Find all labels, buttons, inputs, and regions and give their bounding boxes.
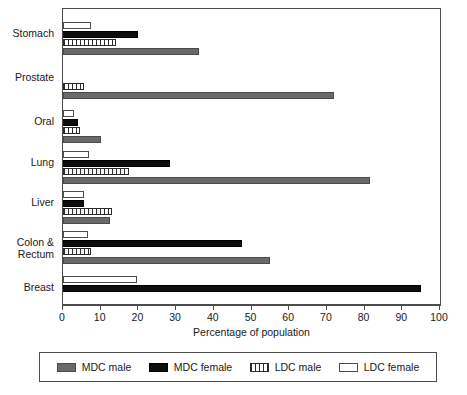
x-tick-10: [100, 305, 101, 310]
x-tick-100: [439, 305, 440, 310]
bar-chart: StomachProstateOralLungLiverColon & Rect…: [0, 0, 467, 395]
x-tick-label-60: 60: [273, 311, 303, 323]
bar-ldc-male-colon-rectum: [63, 248, 91, 255]
x-tick-30: [175, 305, 176, 310]
x-tick-label-100: 100: [424, 311, 454, 323]
bar-ldc-female-stomach: [63, 22, 91, 29]
bar-mdc-male-oral: [63, 136, 101, 143]
ldc-female-swatch: [339, 363, 358, 372]
x-tick-0: [62, 305, 63, 310]
category-label-colon-rectum: Colon & Rectum: [0, 237, 54, 260]
x-tick-label-40: 40: [198, 311, 228, 323]
legend-label: LDC female: [364, 361, 419, 373]
bar-ldc-female-liver: [63, 191, 84, 198]
bar-ldc-female-colon-rectum: [63, 231, 88, 238]
x-tick-60: [288, 305, 289, 310]
bar-ldc-female-oral: [63, 110, 74, 117]
legend-item-ldc-female[interactable]: LDC female: [339, 361, 419, 373]
bar-ldc-female-lung: [63, 151, 89, 158]
x-tick-label-90: 90: [386, 311, 416, 323]
bar-ldc-male-oral: [63, 127, 80, 134]
x-tick-40: [213, 305, 214, 310]
legend-label: MDC female: [174, 361, 232, 373]
legend-items: MDC maleMDC femaleLDC maleLDC female: [40, 353, 436, 381]
x-tick-label-30: 30: [160, 311, 190, 323]
legend-item-mdc-male[interactable]: MDC male: [57, 361, 132, 373]
x-tick-50: [251, 305, 252, 310]
x-axis-title: Percentage of population: [62, 326, 441, 338]
bar-ldc-male-stomach: [63, 39, 116, 46]
x-axis-line: [62, 305, 441, 306]
legend-item-mdc-female[interactable]: MDC female: [149, 361, 232, 373]
x-tick-label-80: 80: [349, 311, 379, 323]
bar-mdc-female-liver: [63, 200, 84, 207]
legend: MDC maleMDC femaleLDC maleLDC female: [39, 352, 437, 382]
x-tick-80: [364, 305, 365, 310]
legend-label: LDC male: [275, 361, 322, 373]
category-label-lung: Lung: [0, 157, 54, 169]
category-label-breast: Breast: [0, 282, 54, 294]
bar-mdc-female-stomach: [63, 31, 138, 38]
bar-mdc-male-prostate: [63, 92, 334, 99]
ldc-male-swatch: [250, 363, 269, 372]
category-axis-labels: StomachProstateOralLungLiverColon & Rect…: [0, 8, 58, 305]
bar-mdc-male-colon-rectum: [63, 257, 270, 264]
bar-ldc-male-prostate: [63, 83, 84, 90]
bar-mdc-male-stomach: [63, 48, 199, 55]
bar-ldc-male-lung: [63, 168, 129, 175]
bar-mdc-female-lung: [63, 160, 170, 167]
bar-mdc-female-breast: [63, 285, 421, 292]
category-label-oral: Oral: [0, 116, 54, 128]
x-tick-70: [326, 305, 327, 310]
x-tick-label-70: 70: [311, 311, 341, 323]
bar-ldc-female-breast: [63, 276, 137, 283]
bar-mdc-female-oral: [63, 119, 78, 126]
bars-layer: [63, 9, 440, 304]
category-label-liver: Liver: [0, 197, 54, 209]
bar-mdc-male-liver: [63, 217, 110, 224]
x-tick-90: [401, 305, 402, 310]
x-tick-label-0: 0: [47, 311, 77, 323]
mdc-male-swatch: [57, 363, 76, 372]
bar-mdc-female-colon-rectum: [63, 240, 242, 247]
legend-label: MDC male: [82, 361, 132, 373]
x-tick-label-10: 10: [85, 311, 115, 323]
category-label-prostate: Prostate: [0, 72, 54, 84]
x-tick-label-20: 20: [122, 311, 152, 323]
bar-mdc-male-lung: [63, 177, 370, 184]
category-label-stomach: Stomach: [0, 28, 54, 40]
x-tick-label-50: 50: [236, 311, 266, 323]
bar-ldc-male-liver: [63, 208, 112, 215]
mdc-female-swatch: [149, 363, 168, 372]
x-tick-20: [137, 305, 138, 310]
legend-item-ldc-male[interactable]: LDC male: [250, 361, 322, 373]
